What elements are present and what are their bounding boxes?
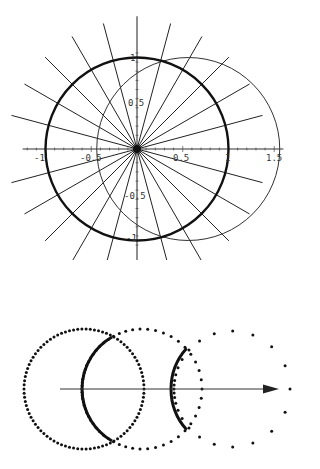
circle-2-dot — [124, 445, 127, 448]
circle-1-dot — [34, 423, 37, 426]
circle-2-dot — [83, 404, 86, 407]
circle-2-dot — [201, 388, 204, 391]
circle-1-dot — [123, 343, 126, 346]
circle-1-dot — [128, 426, 131, 429]
circle-1-dot — [32, 356, 35, 359]
circle-2-dot — [198, 406, 201, 409]
circle-1-dot — [133, 419, 136, 422]
circle-1-dot — [24, 375, 27, 378]
circle-2-dot — [184, 346, 187, 349]
circle-3-dot — [173, 383, 176, 386]
x-tick-label-0-5: 0.5 — [173, 153, 189, 163]
circle-1-dot — [68, 446, 71, 449]
circle-1-dot — [23, 392, 26, 395]
circle-1-dot — [137, 412, 140, 415]
origin-point — [133, 145, 141, 153]
circle-1-dot — [46, 435, 49, 438]
circle-1-dot — [137, 363, 140, 366]
circle-2-dot — [200, 378, 203, 381]
radial-line — [137, 84, 250, 149]
circle-3-dot — [289, 388, 292, 391]
circle-2-dot — [89, 357, 92, 360]
circle-1-dot — [116, 437, 119, 440]
circle-2-dot — [98, 430, 101, 433]
circle-2-dot — [131, 328, 134, 331]
circle-1-dot — [25, 404, 28, 407]
circle-3-dot — [187, 349, 190, 352]
arc-2 — [171, 348, 187, 430]
circle-1-dot — [142, 383, 145, 386]
circle-1-dot — [39, 429, 42, 432]
dotted-circles — [23, 328, 292, 451]
circle-2-dot — [162, 444, 165, 447]
circle-1-dot — [72, 447, 75, 450]
circle-1-dot — [30, 416, 33, 419]
x-tick-label-minus-0-5: -0.5 — [80, 153, 102, 163]
circle-1-dot — [37, 426, 40, 429]
circle-1-dot — [24, 400, 27, 403]
circle-1-dot — [76, 447, 79, 450]
bold-arcs — [82, 337, 187, 441]
circle-2-dot — [131, 447, 134, 450]
circle-1-dot — [123, 432, 126, 435]
circle-2-dot — [112, 335, 115, 338]
circle-1-dot — [42, 343, 45, 346]
circle-3-dot — [173, 396, 176, 399]
circle-1-dot — [26, 367, 29, 370]
circle-3-dot — [181, 417, 184, 420]
circle-3-dot — [173, 379, 176, 382]
radial-line — [72, 36, 137, 149]
axes — [23, 16, 284, 260]
circle-1-dot — [56, 441, 59, 444]
circle-1-dot — [113, 336, 116, 339]
circle-2-dot — [189, 422, 192, 425]
circle-1-dot — [97, 446, 100, 449]
circle-3-dot — [174, 373, 177, 376]
circle-1-dot — [34, 352, 37, 355]
circle-1-dot — [23, 396, 26, 399]
circle-2-dot — [118, 443, 121, 446]
circle-1-dot — [133, 356, 136, 359]
arrow-head-icon — [263, 385, 279, 394]
circle-2-dot — [81, 391, 84, 394]
circle-2-dot — [118, 332, 121, 335]
circle-2-dot — [184, 429, 187, 432]
circle-1-dot — [49, 338, 52, 341]
radial-line — [137, 115, 263, 149]
circle-3-dot — [213, 332, 216, 335]
circle-2-dot — [194, 415, 197, 418]
circle-2-dot — [194, 360, 197, 363]
direction-arrow — [60, 385, 279, 394]
circle-1-dot — [105, 332, 108, 335]
circle-2-dot — [98, 345, 101, 348]
circle-1-dot — [140, 404, 143, 407]
circle-1-dot — [141, 400, 144, 403]
circle-1-dot — [32, 419, 35, 422]
circle-1-dot — [56, 334, 59, 337]
circle-1-dot — [116, 338, 119, 341]
circle-2-dot — [85, 411, 88, 414]
circle-1-dot — [139, 367, 142, 370]
circle-1-dot — [85, 328, 88, 331]
circle-3-dot — [231, 330, 234, 333]
circle-2-dot — [112, 440, 115, 443]
circle-3-dot — [270, 345, 273, 348]
circle-2-dot — [81, 394, 84, 397]
circle-1-dot — [46, 340, 49, 343]
circle-1-dot — [119, 340, 122, 343]
circle-2-dot — [82, 400, 85, 403]
circle-1-dot — [140, 371, 143, 374]
y-tick-label-1: 1 — [130, 53, 135, 63]
circle-1-dot — [143, 388, 146, 391]
circle-1-dot — [139, 408, 142, 411]
circle-1-dot — [23, 379, 26, 382]
circle-1-dot — [101, 330, 104, 333]
circle-2-dot — [95, 349, 98, 352]
circle-1-dot — [64, 330, 67, 333]
circle-1-dot — [30, 359, 33, 362]
circle-2-dot — [102, 341, 105, 344]
circle-3-dot — [284, 364, 287, 367]
circle-3-dot — [177, 409, 180, 412]
circle-1-dot — [135, 416, 138, 419]
circle-2-dot — [84, 407, 87, 410]
